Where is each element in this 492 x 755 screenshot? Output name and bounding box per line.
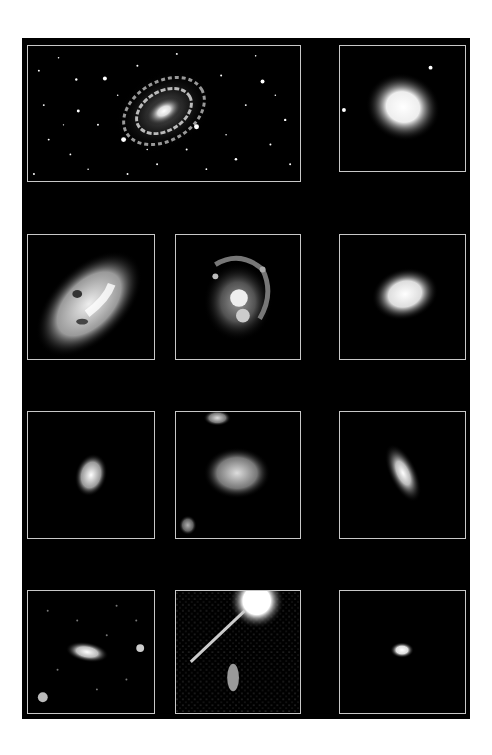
face-on-spiral-image	[176, 235, 300, 359]
galaxy-panel-p10	[175, 590, 301, 714]
compact-distant-galaxy-image	[340, 591, 465, 713]
spiral-galaxy-starfield-image	[28, 46, 300, 181]
inclined-spiral-image	[28, 235, 154, 359]
bright-star-with-galaxy-image	[176, 591, 300, 713]
galaxy-panel-p1	[27, 45, 301, 182]
faint-galaxy-noisy-field-image	[28, 591, 154, 713]
galaxy-panel-p8	[339, 411, 466, 539]
galaxy-panel-p3	[27, 234, 155, 360]
galaxy-panel-p7	[175, 411, 301, 539]
galaxy-panel-p11	[339, 590, 466, 714]
galaxy-panel-p5	[339, 234, 466, 360]
grainy-elliptical-image	[340, 235, 465, 359]
galaxy-panel-p9	[27, 590, 155, 714]
compact-spiral-image	[28, 412, 154, 538]
irregular-galaxy-image	[176, 412, 300, 538]
galaxy-panel-p6	[27, 411, 155, 539]
inclined-disk-image	[340, 412, 465, 538]
galaxy-panel-p2	[339, 45, 466, 172]
elliptical-galaxy-image	[340, 46, 465, 171]
galaxy-panel-p4	[175, 234, 301, 360]
